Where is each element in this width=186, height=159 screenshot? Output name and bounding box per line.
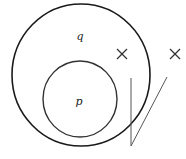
label-q: q bbox=[76, 30, 83, 43]
cross-mark-icon bbox=[170, 49, 180, 59]
venn-diagram: q p bbox=[0, 0, 186, 159]
outer-circle-q bbox=[12, 4, 150, 146]
diagram-canvas: q p bbox=[0, 0, 186, 159]
cross-mark-icon bbox=[117, 49, 127, 59]
label-p: p bbox=[75, 95, 82, 108]
